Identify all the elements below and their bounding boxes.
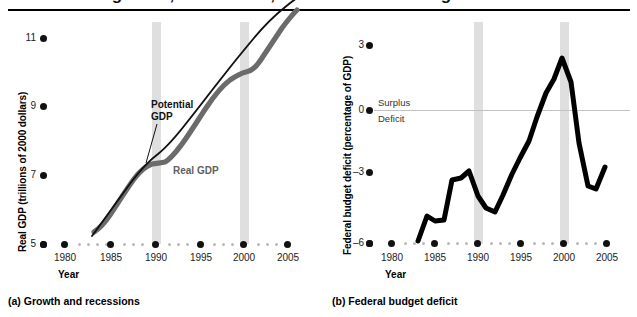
real-gdp-curve — [94, 10, 297, 232]
panel-b-xtick-label: 2005 — [589, 252, 625, 263]
panel-b-xtick-label: 2000 — [546, 252, 582, 263]
panel-b-xtick-dot-2000 — [560, 240, 567, 247]
panel-b-caption: (b) Federal budget deficit — [332, 295, 457, 307]
panel-a-caption: (a) Growth and recessions — [8, 295, 140, 307]
panel-a-xaxis-minor-dot — [177, 243, 180, 246]
federal-budget-deficit-curve — [418, 58, 605, 241]
panel-b-xaxis-minor-dot — [551, 242, 554, 245]
panel-b-xtick-dot-1990 — [474, 240, 481, 247]
panel-b-xtick-dot-1985 — [431, 240, 438, 247]
panel-a-xtick-dot-1980 — [61, 241, 68, 248]
panel-a-xtick-dot-2000 — [240, 241, 247, 248]
panel-a-xtick-label: 1985 — [93, 252, 129, 263]
panel-b-xaxis-minor-dot — [422, 242, 425, 245]
panel-a-plot-area — [0, 0, 330, 317]
panel-b-xaxis-minor-dot — [465, 242, 468, 245]
panel-a-xtick-dot-1990 — [152, 241, 159, 248]
real-gdp-label: Real GDP — [173, 165, 219, 177]
panel-b-xaxis-minor-dot — [456, 242, 459, 245]
panel-a-xaxis-minor-dot — [231, 243, 234, 246]
panel-b-xtick-label: 1990 — [460, 252, 496, 263]
panel-a-xaxis-minor-dot — [266, 243, 269, 246]
panel-b-xtick-label: 1980 — [374, 252, 410, 263]
panel-b-xaxis-minor-dot — [542, 242, 545, 245]
panel-b-xaxis-minor-dot — [576, 242, 579, 245]
panel-a-xaxis-minor-dot — [213, 243, 216, 246]
panel-b-x-axis-label: Year — [385, 269, 406, 280]
panel-a-xaxis-minor-dot — [123, 243, 126, 246]
panel-a-xtick-label: 1995 — [183, 252, 219, 263]
panel-b-xtick-label: 1985 — [417, 252, 453, 263]
panel-a-x-axis-label: Year — [58, 269, 79, 280]
panel-b-xaxis-origin-dot — [366, 240, 373, 247]
panel-a-xaxis-minor-dot — [186, 243, 189, 246]
panel-a-xaxis-minor-dot — [275, 243, 278, 246]
panel-b-xaxis-minor-dot — [499, 242, 502, 245]
panel-a-xtick-dot-1995 — [197, 241, 204, 248]
panel-a-xtick-label: 2000 — [226, 252, 262, 263]
panel-a-xtick-label: 1980 — [47, 252, 83, 263]
panel-a-xaxis-minor-dot — [132, 243, 135, 246]
panel-growth-and-recessions: Real GDP (trillions of 2000 dollars) 11 … — [0, 0, 330, 317]
panel-b-xaxis-minor-dot — [585, 242, 588, 245]
panel-b-xaxis-minor-dot — [533, 242, 536, 245]
panel-a-xaxis-origin-dot — [40, 241, 47, 248]
panel-b-xtick-dot-1980 — [388, 240, 395, 247]
potential-gdp-label: Potential GDP — [151, 99, 193, 122]
panel-b-plot-area — [330, 0, 637, 317]
panel-a-xaxis-minor-dot — [96, 243, 99, 246]
panel-a-xaxis-minor-dot — [78, 243, 81, 246]
panel-b-xtick-dot-2005 — [603, 240, 610, 247]
potential-gdp-curve — [92, 0, 297, 236]
panel-a-xaxis-minor-dot — [87, 243, 90, 246]
panel-a-xtick-label: 2005 — [270, 252, 306, 263]
panel-a-xaxis-minor-dot — [257, 243, 260, 246]
panel-federal-budget-deficit: Federal budget deficit (percentage of GD… — [330, 0, 637, 317]
panel-a-xaxis-minor-dot — [141, 243, 144, 246]
panel-a-xtick-dot-2005 — [284, 241, 291, 248]
panel-a-xaxis-minor-dot — [168, 243, 171, 246]
panel-b-xtick-label: 1995 — [503, 252, 539, 263]
panel-b-xaxis-minor-dot — [447, 242, 450, 245]
panel-b-xaxis-minor-dot — [404, 242, 407, 245]
panel-a-xaxis-minor-dot — [222, 243, 225, 246]
panel-b-xtick-dot-1995 — [517, 240, 524, 247]
panel-a-xtick-dot-1985 — [107, 241, 114, 248]
panel-b-xaxis-minor-dot — [490, 242, 493, 245]
panel-b-xaxis-minor-dot — [413, 242, 416, 245]
panel-b-xaxis-minor-dot — [594, 242, 597, 245]
panel-b-xaxis-minor-dot — [508, 242, 511, 245]
panel-a-xtick-label: 1990 — [138, 252, 174, 263]
